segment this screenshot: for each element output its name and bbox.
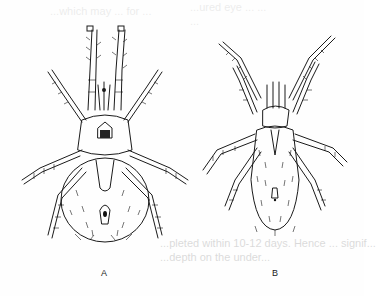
- figure-label-b: B: [272, 268, 278, 278]
- bleed-text-line: ...ured eye ... ...: [190, 0, 266, 15]
- mite-illustration-a: [20, 10, 190, 250]
- figure-label-a: A: [101, 268, 107, 278]
- mite-illustration-b: [195, 30, 355, 240]
- bleed-text-line: ...: [190, 14, 199, 29]
- bleed-text-line: ...depth on the under...: [160, 250, 270, 265]
